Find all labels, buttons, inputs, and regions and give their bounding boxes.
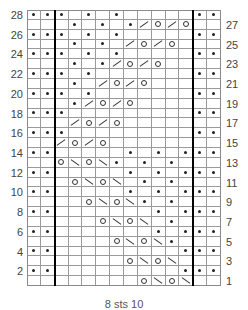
chart-cell [96,237,110,247]
chart-cell [82,266,96,276]
chart-cell [152,20,166,30]
ssk-icon [112,179,121,186]
purl-icon [46,92,49,95]
chart-cell [110,256,124,266]
chart-cell [207,49,221,59]
chart-cell [110,20,124,30]
row-number-label: 4 [5,247,23,257]
chart-cell [138,69,152,79]
yarn-over-icon [169,41,175,47]
chart-cell [166,266,180,276]
chart-cell [27,148,41,158]
chart-cell [193,207,207,217]
chart-cell [110,237,124,247]
purl-icon [184,269,187,272]
chart-cell [110,10,124,20]
chart-cell [207,178,221,188]
chart-cell [55,99,69,109]
chart-cell [166,49,180,59]
chart-cell [193,256,207,266]
purl-icon [60,13,63,16]
purl-icon [87,72,90,75]
chart-cell [166,276,180,286]
purl-icon [60,92,63,95]
chart-cell [138,30,152,40]
row-number-label: 12 [5,168,23,178]
chart-cell [69,227,83,237]
purl-icon [46,249,49,252]
purl-icon [143,200,146,203]
purl-icon [198,210,201,213]
chart-cell [55,20,69,30]
purl-icon [46,33,49,36]
yarn-over-icon [141,80,147,86]
ssk-icon [71,159,80,166]
yarn-over-icon [72,179,78,185]
purl-icon [60,111,63,114]
chart-cell [166,178,180,188]
purl-icon [32,230,35,233]
chart-cell [41,109,55,119]
row-number-label: 10 [5,187,23,197]
chart-cell [110,79,124,89]
chart-cell [96,247,110,257]
chart-cell [27,227,41,237]
purl-icon [32,171,35,174]
row-number-label: 14 [5,148,23,158]
k2tog-icon [57,139,66,146]
chart-cell [55,197,69,207]
chart-cell [193,69,207,79]
chart-cell [69,30,83,40]
chart-cell [166,217,180,227]
yarn-over-icon [72,140,78,146]
chart-cell [82,237,96,247]
chart-cell [124,227,138,237]
chart-cell [96,197,110,207]
chart-cell [82,79,96,89]
purl-icon [212,92,215,95]
chart-cell [27,266,41,276]
chart-cell [27,247,41,257]
yarn-over-icon [58,159,64,165]
purl-icon [198,190,201,193]
purl-icon [198,72,201,75]
chart-cell [152,79,166,89]
chart-cell [152,30,166,40]
purl-icon [170,161,173,164]
chart-cell [124,138,138,148]
purl-icon [198,151,201,154]
chart-cell [96,148,110,158]
k2tog-icon [140,21,149,28]
row-number-label: 13 [226,158,238,168]
row-number-label: 8 [5,207,23,217]
chart-cell [138,247,152,257]
chart-cell [41,118,55,128]
purl-icon [73,62,76,65]
chart-cell [27,69,41,79]
yarn-over-icon [127,218,133,224]
chart-cell [166,158,180,168]
chart-cell [124,118,138,128]
chart-cell [138,99,152,109]
chart-cell [124,266,138,276]
chart-cell [27,187,41,197]
chart-cell [207,99,221,109]
chart-cell [152,237,166,247]
chart-cell [41,207,55,217]
purl-icon [184,230,187,233]
chart-cell [69,49,83,59]
chart-cell [82,168,96,178]
purl-icon [32,111,35,114]
chart-cell [124,20,138,30]
chart-cell [193,89,207,99]
chart-cell [152,49,166,59]
chart-cell [207,138,221,148]
chart-cell [69,99,83,109]
yarn-over-icon [127,100,133,106]
chart-cell [193,227,207,237]
chart-cell [69,237,83,247]
chart-cell [27,128,41,138]
purl-icon [32,131,35,134]
chart-cell [41,49,55,59]
ssk-icon [154,277,163,284]
